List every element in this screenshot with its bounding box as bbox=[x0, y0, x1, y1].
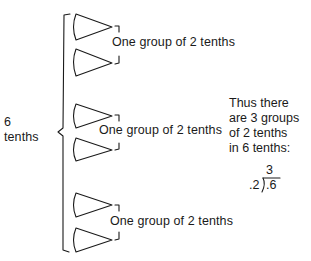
wedge-3-1 bbox=[74, 193, 113, 217]
group-2-bracket bbox=[115, 115, 119, 121]
long-division: 3 .2 .6 bbox=[247, 163, 287, 195]
conclusion-line: are 3 groups bbox=[229, 111, 299, 126]
conclusion-line: in 6 tenths: bbox=[229, 141, 299, 156]
division-divisor: .2 bbox=[249, 178, 259, 192]
group-1-label: One group of 2 tenths bbox=[112, 36, 235, 49]
conclusion-line: Thus there bbox=[229, 96, 299, 111]
division-quotient: 3 bbox=[266, 163, 273, 177]
group-1-bracket-lower bbox=[115, 56, 119, 64]
group-3-label: One group of 2 tenths bbox=[110, 215, 233, 228]
whole-number: 6 bbox=[4, 116, 11, 129]
conclusion-text: Thus there are 3 groups of 2 tenths in 6… bbox=[229, 96, 299, 156]
wedge-2-2 bbox=[74, 138, 113, 161]
whole-brace bbox=[58, 14, 70, 252]
wedge-3-2 bbox=[74, 228, 113, 252]
wedge-1-1 bbox=[74, 14, 113, 40]
group-3-bracket-lower bbox=[115, 232, 119, 240]
group-3-bracket bbox=[115, 205, 119, 211]
whole-unit: tenths bbox=[4, 131, 39, 144]
group-2-bracket-lower bbox=[115, 143, 119, 150]
group-2-label: One group of 2 tenths bbox=[99, 124, 222, 137]
group-1-bracket bbox=[115, 26, 119, 32]
conclusion-line: of 2 tenths bbox=[229, 126, 299, 141]
division-dividend: .6 bbox=[266, 178, 276, 192]
wedge-1-2 bbox=[74, 49, 113, 76]
